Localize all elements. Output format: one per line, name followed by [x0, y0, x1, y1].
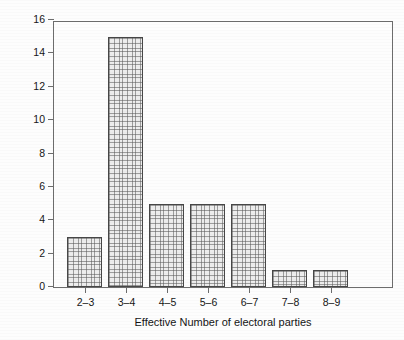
y-tick: 12: [48, 86, 54, 87]
y-tick: 10: [48, 119, 54, 120]
bar: [149, 204, 184, 287]
x-tick-label: 8–9: [306, 296, 358, 308]
bar: [231, 204, 266, 287]
x-tick: 7–8: [290, 287, 291, 293]
y-tick-label: 12: [33, 80, 45, 93]
x-tick: 6–7: [249, 287, 250, 293]
bar: [313, 270, 348, 287]
x-axis-title: Effective Number of electoral parties: [53, 316, 393, 328]
y-tick-label: 4: [39, 213, 45, 226]
y-tick: 2: [48, 253, 54, 254]
y-tick-label: 8: [39, 147, 45, 160]
y-tick-label: 14: [33, 46, 45, 59]
y-tick: 0: [48, 286, 54, 287]
bar: [108, 37, 143, 287]
y-tick: 4: [48, 219, 54, 220]
bar: [67, 237, 102, 287]
plot-area: 0246810121416 2–33–44–55–66–77–88–9: [53, 21, 393, 288]
y-tick-label: 2: [39, 247, 45, 260]
bar: [190, 204, 225, 287]
y-tick: 8: [48, 153, 54, 154]
y-tick: 14: [48, 52, 54, 53]
y-tick-label: 6: [39, 180, 45, 193]
x-tick: 3–4: [126, 287, 127, 293]
y-tick-label: 0: [39, 280, 45, 293]
x-tick: 5–6: [208, 287, 209, 293]
x-tick: 8–9: [331, 287, 332, 293]
y-tick: 16: [48, 19, 54, 20]
y-tick: 6: [48, 186, 54, 187]
histogram-figure: Number of countries 0246810121416 2–33–4…: [0, 0, 404, 340]
x-tick: 2–3: [85, 287, 86, 293]
y-tick-label: 16: [33, 13, 45, 26]
bar: [272, 270, 307, 287]
x-tick: 4–5: [167, 287, 168, 293]
y-tick-label: 10: [33, 113, 45, 126]
